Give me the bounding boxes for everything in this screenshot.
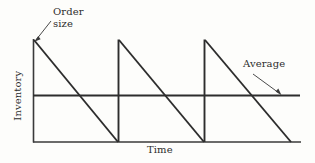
annotation-order-size-line1: Order [53,6,84,17]
x-axis-label: Time [147,144,173,156]
annotation-average: Average [243,58,285,70]
sawtooth-descent-1 [34,40,118,142]
chart-plot-area [0,0,315,163]
order-size-leader-arrow [34,21,51,42]
average-leader-arrow [253,74,282,95]
annotation-order-size: Ordersize [53,6,84,29]
sawtooth-descent-2 [119,40,204,142]
annotation-order-size-line2: size [53,18,73,29]
y-axis-label: Inventory [12,60,24,132]
inventory-sawtooth-figure: Ordersize Average Time Inventory [0,0,315,163]
